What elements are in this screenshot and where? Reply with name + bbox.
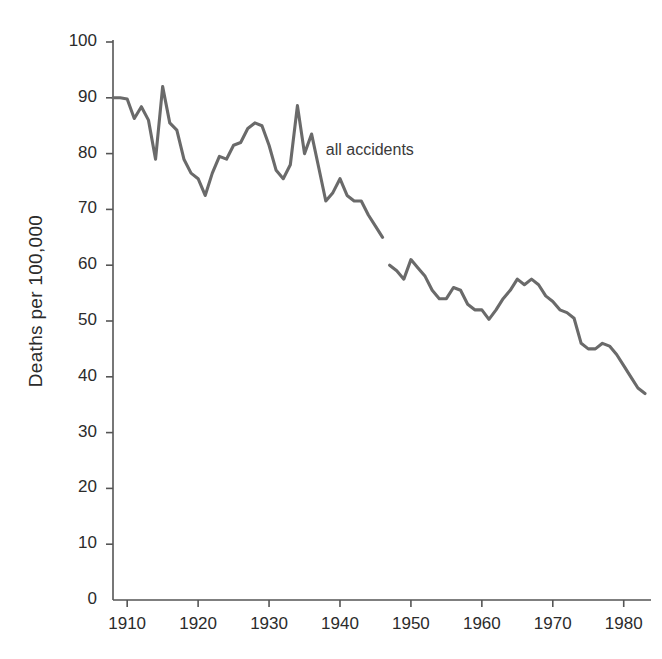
data-line-all-accidents: [390, 260, 645, 394]
data-series-group: [113, 87, 645, 394]
plot-area: [0, 0, 662, 659]
chart-container: Deaths per 100,000 010203040506070809010…: [0, 0, 662, 659]
data-line-all-accidents: [113, 87, 383, 238]
axes: [106, 40, 651, 607]
